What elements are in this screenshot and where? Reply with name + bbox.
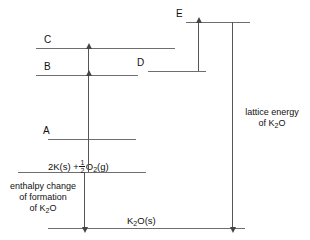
level-label-d: D: [137, 58, 144, 68]
lattice-k-subscript: 2: [275, 122, 279, 129]
fraction-numerator: 1: [79, 159, 85, 168]
arrowhead-up-icon: [86, 43, 92, 49]
lattice-oxide: O: [278, 118, 285, 128]
arrowhead-up-icon: [196, 17, 202, 23]
level-line-a: [48, 139, 136, 140]
potassium-subscript: 2: [133, 220, 137, 227]
species-label-elements: 2K(s) +12O2(g): [48, 159, 109, 175]
level-label-c: C: [44, 35, 51, 45]
level-label-e: E: [176, 9, 183, 19]
level-line-d: [148, 71, 206, 72]
enthalpy-oxide: O: [49, 203, 56, 213]
enthalpy-k-subscript: 2: [46, 207, 50, 214]
elements-prefix: 2K(s) +: [48, 161, 79, 172]
lattice-line-1: lattice energy: [238, 107, 306, 118]
arrow-d-to-e: [198, 22, 199, 71]
compound-oxide-state: O(s): [137, 215, 155, 226]
enthalpy-line-3: of K2O: [6, 203, 80, 214]
lattice-of-k: of K: [259, 118, 275, 128]
arrow-elements-to-b: [88, 75, 89, 172]
enthalpy-of-k: of K: [30, 203, 46, 213]
arrowhead-down-icon: [82, 227, 88, 233]
enthalpy-line-2: of formation: [6, 192, 80, 203]
arrow-enthalpy-of-formation: [84, 172, 85, 228]
level-line-c: [36, 48, 175, 49]
oxygen-state: (g): [97, 161, 109, 172]
lattice-line-2: of K2O: [238, 118, 306, 129]
arrow-lattice-energy: [232, 22, 233, 228]
lattice-energy-label: lattice energy of K2O: [238, 107, 306, 129]
enthalpy-line-1: enthalpy change: [6, 181, 80, 192]
arrowhead-up-icon: [86, 70, 92, 76]
oxygen-subscript: 2: [93, 166, 97, 173]
energy-level-diagram: E C D B A 2K(s) +12O2(g) K2O(s) enthalpy…: [0, 0, 310, 240]
species-label-compound: K2O(s): [127, 215, 156, 227]
level-label-a: A: [43, 126, 50, 136]
level-line-compound: [48, 228, 245, 229]
arrowhead-down-icon: [230, 227, 236, 233]
level-label-b: B: [44, 62, 51, 72]
enthalpy-of-formation-label: enthalpy change of formation of K2O: [6, 181, 80, 214]
